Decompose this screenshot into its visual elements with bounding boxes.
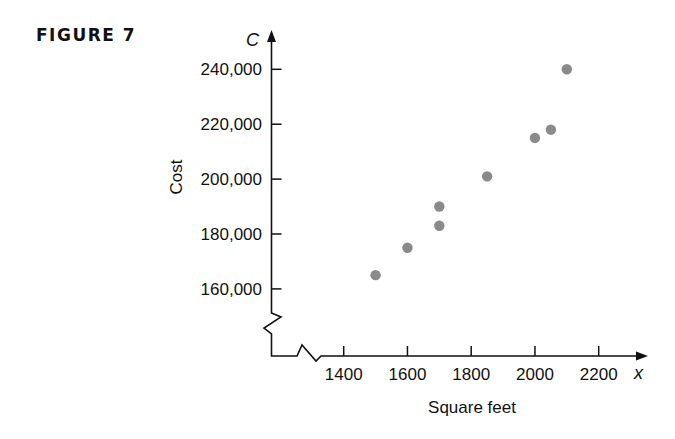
x-tick-label: 1400 xyxy=(325,365,363,384)
data-point xyxy=(370,270,380,280)
y-axis-arrow-icon xyxy=(267,30,276,42)
y-tick-label: 240,000 xyxy=(201,60,262,79)
data-point xyxy=(546,124,556,134)
x-variable-label: x xyxy=(633,363,644,383)
y-tick-label: 220,000 xyxy=(201,115,262,134)
data-point xyxy=(434,221,444,231)
x-tick-label: 1800 xyxy=(452,365,490,384)
y-axis-ticks: 160,000180,000200,000220,000240,000 xyxy=(201,60,282,299)
y-axis xyxy=(264,38,640,361)
scatter-chart: 160,000180,000200,000220,000240,000 1400… xyxy=(0,0,675,439)
data-point xyxy=(434,201,444,211)
data-points xyxy=(370,64,572,280)
x-tick-label: 2200 xyxy=(580,365,618,384)
data-point xyxy=(402,243,412,253)
y-variable-label: C xyxy=(246,30,260,50)
x-axis-ticks: 14001600180020002200 xyxy=(325,346,618,384)
y-tick-label: 160,000 xyxy=(201,280,262,299)
x-axis-arrow-icon xyxy=(636,352,648,361)
x-tick-label: 1600 xyxy=(389,365,427,384)
data-point xyxy=(562,64,572,74)
y-tick-label: 200,000 xyxy=(201,170,262,189)
x-tick-label: 2000 xyxy=(516,365,554,384)
x-axis-title: Square feet xyxy=(428,398,516,417)
y-tick-label: 180,000 xyxy=(201,225,262,244)
data-point xyxy=(530,133,540,143)
y-axis-title: Cost xyxy=(167,159,186,194)
data-point xyxy=(482,171,492,181)
